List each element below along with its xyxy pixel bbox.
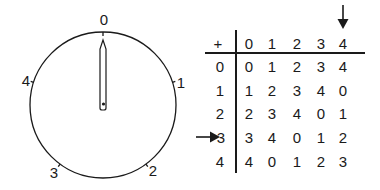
table-cell: 1: [245, 83, 253, 98]
table-cell: 4: [339, 59, 347, 74]
row-header-3: 3: [217, 130, 225, 145]
table-cell: 2: [268, 83, 276, 98]
table-cell: 4: [293, 106, 301, 121]
column-header-4: 4: [339, 36, 347, 51]
table-cell: 0: [268, 154, 276, 169]
table-cell: 0: [293, 130, 301, 145]
table-cell: 1: [268, 59, 276, 74]
table-cell: 4: [245, 154, 253, 169]
table-cell: 3: [339, 154, 347, 169]
table-cell: 3: [293, 83, 301, 98]
operator-symbol: +: [214, 36, 223, 51]
addition-mod-5-table: + 0 1 2 3 4 0 1 2 3 4 0 1 2 3 4 1 2 3 4 …: [0, 0, 380, 190]
table-cell: 0: [339, 83, 347, 98]
table-cell: 2: [339, 130, 347, 145]
down-arrow-icon: [338, 5, 349, 29]
table-cell: 0: [245, 59, 253, 74]
table-cell: 3: [245, 130, 253, 145]
column-header-3: 3: [317, 36, 325, 51]
table-cell: 2: [317, 154, 325, 169]
row-header-4: 4: [216, 154, 224, 169]
row-header-0: 0: [216, 59, 224, 74]
column-header-0: 0: [245, 36, 253, 51]
column-header-1: 1: [268, 36, 276, 51]
row-header-1: 1: [216, 83, 224, 98]
table-cell: 0: [317, 106, 325, 121]
table-cell: 2: [293, 59, 301, 74]
column-header-2: 2: [293, 36, 301, 51]
table-cell: 4: [268, 130, 276, 145]
table-cell: 3: [317, 59, 325, 74]
table-cell: 3: [268, 106, 276, 121]
table-cell: 1: [317, 130, 325, 145]
row-header-2: 2: [216, 106, 224, 121]
table-cell: 4: [317, 83, 325, 98]
table-cell: 2: [245, 106, 253, 121]
table-cell: 1: [339, 106, 347, 121]
table-cell: 1: [293, 154, 301, 169]
